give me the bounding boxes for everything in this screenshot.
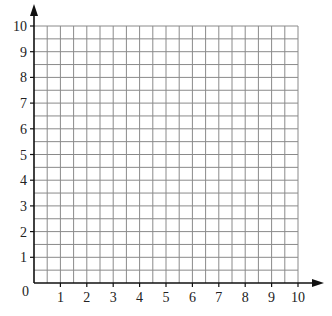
x-tick-label: 8	[242, 290, 249, 305]
x-tick-label: 10	[291, 290, 305, 305]
y-tick-label: 3	[20, 199, 27, 214]
y-axis-tick-labels: 12345678910	[13, 19, 27, 265]
grid-lines	[34, 26, 298, 283]
y-tick-label: 9	[20, 45, 27, 60]
origin-label: 0	[22, 284, 29, 299]
y-tick-label: 5	[20, 148, 27, 163]
x-tick-label: 7	[215, 290, 222, 305]
y-tick-label: 2	[20, 225, 27, 240]
x-tick-label: 2	[83, 290, 90, 305]
x-tick-label: 6	[189, 290, 196, 305]
y-tick-label: 1	[20, 250, 27, 265]
x-tick-label: 1	[57, 290, 64, 305]
y-axis-arrow-icon	[30, 4, 38, 16]
x-tick-label: 9	[268, 290, 275, 305]
y-tick-label: 4	[20, 173, 27, 188]
x-axis-tick-labels: 12345678910	[57, 290, 305, 305]
coordinate-grid: 12345678910 12345678910 0	[0, 0, 332, 316]
x-tick-label: 5	[163, 290, 170, 305]
x-tick-label: 4	[136, 290, 143, 305]
y-tick-label: 7	[20, 96, 27, 111]
y-tick-label: 8	[20, 70, 27, 85]
x-axis-arrow-icon	[312, 279, 324, 287]
x-tick-label: 3	[110, 290, 117, 305]
y-tick-label: 10	[13, 19, 27, 34]
y-tick-label: 6	[20, 122, 27, 137]
